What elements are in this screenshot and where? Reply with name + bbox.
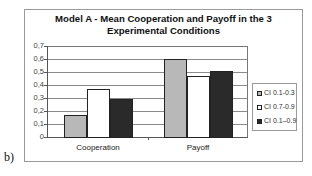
y-tick-label: 0,4 [18, 81, 44, 89]
legend-label: CI 0.7-0.9 [264, 103, 295, 110]
panel-label: b) [4, 150, 14, 165]
y-tick-label: 0,2 [18, 107, 44, 115]
legend-item: CI 0.1-0.3 [257, 89, 295, 97]
y-axis [47, 46, 48, 138]
bar-payoff [164, 59, 187, 138]
legend-swatch-icon [257, 91, 262, 96]
legend-item: CI 0.7-0.9 [257, 103, 295, 111]
legend-label: CI 0.1-0.3 [264, 89, 295, 96]
legend-swatch-icon [257, 119, 262, 124]
y-tick-label: 0 [18, 133, 44, 141]
x-tick-mark [148, 137, 149, 140]
x-category-label: Payoff [158, 143, 238, 152]
legend-swatch-icon [257, 105, 262, 110]
legend-label: CI 0.1–0.9 [264, 117, 296, 124]
bar-cooperation [87, 89, 110, 138]
y-tick-label: 0,5 [18, 68, 44, 76]
y-tick-label: 0,1 [18, 120, 44, 128]
y-tick-label: 0,6 [18, 55, 44, 63]
y-tick-label: 0,7 [18, 42, 44, 50]
x-category-label: Cooperation [58, 143, 138, 152]
y-tick-label: 0,3 [18, 94, 44, 102]
chart-title-line-2: Experimental Conditions [24, 25, 303, 37]
bar-cooperation [64, 115, 87, 138]
chart-title: Model A - Mean Cooperation and Payoff in… [24, 13, 303, 37]
bar-payoff [210, 71, 233, 138]
legend: CI 0.1-0.3 CI 0.7-0.9 CI 0.1–0.9 [252, 83, 297, 131]
chart-title-line-1: Model A - Mean Cooperation and Payoff in… [24, 13, 303, 25]
bar-payoff [187, 76, 210, 138]
legend-item: CI 0.1–0.9 [257, 117, 296, 125]
bar-cooperation [110, 99, 133, 138]
